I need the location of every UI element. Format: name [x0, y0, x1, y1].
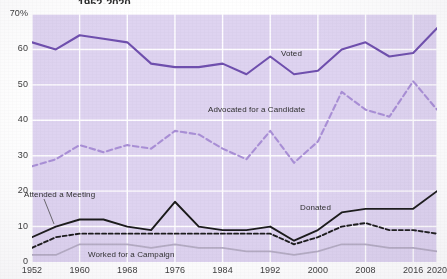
series-label-voted: Voted [281, 49, 302, 58]
x-axis-tick: 1976 [155, 265, 195, 275]
y-axis-tick: 50 [0, 79, 28, 89]
series-label-worked: Worked for a Campaign [88, 250, 174, 259]
y-axis-tick: 10 [0, 221, 28, 231]
series-label-donated: Donated [300, 203, 331, 212]
series-label-attended: Attended a Meeting [24, 190, 95, 199]
x-axis-tick: 1952 [12, 265, 52, 275]
plot-background [32, 14, 437, 262]
x-axis-tick: 2000 [298, 265, 338, 275]
x-axis-tick: 2020 [417, 265, 447, 275]
series-label-advocated: Advocated for a Candidate [208, 105, 305, 114]
y-axis-tick: 30 [0, 150, 28, 160]
chart-container: 1952-2020 70%6050403020100 1952196019681… [0, 0, 447, 279]
y-axis-tick: 40 [0, 114, 28, 124]
x-axis-tick: 1960 [60, 265, 100, 275]
x-axis-tick: 2008 [346, 265, 386, 275]
y-axis-tick: 70% [0, 8, 28, 18]
y-axis-tick: 60 [0, 43, 28, 53]
x-axis-tick: 1992 [250, 265, 290, 275]
x-axis-tick: 1968 [107, 265, 147, 275]
x-axis-tick: 1984 [203, 265, 243, 275]
chart-canvas [0, 0, 447, 279]
